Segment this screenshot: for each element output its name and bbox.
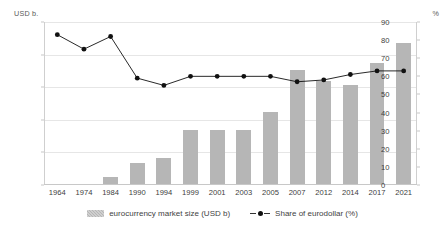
data-point-marker [82, 47, 87, 52]
x-tick-label: 1990 [124, 188, 151, 197]
data-point-marker [241, 74, 246, 79]
x-tick-label: 2021 [390, 188, 417, 197]
right-axis [416, 22, 417, 185]
right-tick-label: 90 [381, 18, 407, 27]
data-point-marker [55, 32, 60, 37]
left-tick-mark [41, 54, 44, 55]
right-tick-label: 80 [381, 36, 407, 45]
chart-container: USD b. % 05,00010,00015,00020,00025,000 … [0, 0, 445, 236]
right-axis-unit-label: % [433, 9, 439, 18]
data-point-marker [375, 69, 380, 74]
x-tick-label: 2012 [310, 188, 337, 197]
x-tick-label: 1964 [44, 188, 71, 197]
x-tick-label: 2005 [257, 188, 284, 197]
x-tick-label: 1999 [177, 188, 204, 197]
right-tick-label: 70 [381, 54, 407, 63]
x-tick-label: 2014 [337, 188, 364, 197]
data-point-marker [321, 78, 326, 83]
right-tick-mark [417, 148, 420, 149]
data-point-marker [268, 74, 273, 79]
left-tick-mark [41, 185, 44, 186]
data-point-marker [161, 83, 166, 88]
right-tick-mark [417, 130, 420, 131]
right-tick-label: 20 [381, 144, 407, 153]
x-tick-label: 1974 [71, 188, 98, 197]
right-tick-label: 60 [381, 72, 407, 81]
x-axis-tick-labels: 1964197419841990199419992001200320052007… [44, 188, 417, 197]
trend-line [57, 35, 403, 86]
right-tick-mark [417, 185, 420, 186]
x-axis [44, 184, 417, 185]
data-point-marker [188, 74, 193, 79]
left-tick-mark [41, 119, 44, 120]
x-tick-label: 2003 [230, 188, 257, 197]
legend-item-bar: eurocurrency market size (USD b) [87, 209, 230, 218]
right-tick-mark [417, 58, 420, 59]
right-tick-mark [417, 112, 420, 113]
legend-item-line: Share of eurodollar (%) [250, 209, 358, 218]
right-tick-mark [417, 22, 420, 23]
data-point-marker [108, 34, 113, 39]
right-tick-mark [417, 76, 420, 77]
x-tick-label: 1994 [151, 188, 178, 197]
legend-line-label: Share of eurodollar (%) [275, 209, 358, 218]
x-tick-label: 2007 [284, 188, 311, 197]
right-tick-mark [417, 94, 420, 95]
data-point-marker [135, 76, 140, 81]
plot-area [44, 22, 417, 185]
right-tick-mark [417, 166, 420, 167]
right-tick-label: 30 [381, 126, 407, 135]
left-tick-mark [41, 22, 44, 23]
left-axis-unit-label: USD b. [14, 9, 38, 18]
data-point-marker [215, 74, 220, 79]
legend-line-marker [250, 210, 270, 218]
x-tick-label: 2001 [204, 188, 231, 197]
right-tick-label: 10 [381, 162, 407, 171]
x-tick-label: 2017 [364, 188, 391, 197]
right-tick-label: 40 [381, 108, 407, 117]
data-point-marker [295, 79, 300, 84]
x-tick-label: 1984 [97, 188, 124, 197]
legend-bar-label: eurocurrency market size (USD b) [109, 209, 230, 218]
right-tick-label: 50 [381, 90, 407, 99]
right-tick-mark [417, 40, 420, 41]
line-series [44, 22, 417, 185]
left-tick-mark [41, 87, 44, 88]
left-axis [44, 22, 45, 185]
left-tick-mark [41, 152, 44, 153]
chart-legend: eurocurrency market size (USD b) Share o… [0, 209, 445, 218]
data-point-marker [348, 72, 353, 77]
legend-bar-swatch [87, 210, 104, 217]
